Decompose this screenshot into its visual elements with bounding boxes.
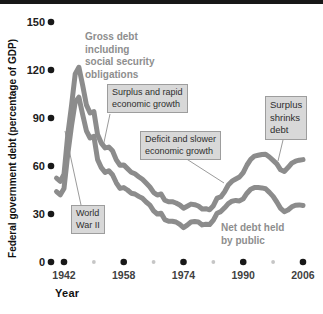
axis-tick-dot <box>48 211 55 218</box>
y-tick-60: 60 <box>15 159 45 173</box>
axis-tick-dot <box>48 19 55 26</box>
net-debt-label: Net debt held by public <box>221 222 284 247</box>
y-tick-30: 30 <box>15 207 45 221</box>
axis-tick-dot <box>48 259 55 266</box>
callout-line-surplus-rapid <box>103 114 110 147</box>
axis-tick-dot <box>61 259 68 266</box>
x-tick-1942: 1942 <box>44 269 84 282</box>
annotation-box-surplus-shrinks: Surplus shrinks debt <box>265 96 307 140</box>
axis-tick-dot <box>300 259 307 266</box>
axis-tick-dot <box>180 259 187 266</box>
x-tick-1990: 1990 <box>223 269 263 282</box>
axis-tick-dot <box>271 260 275 264</box>
x-axis-title: Year <box>55 287 79 299</box>
axis-tick-dot <box>48 163 55 170</box>
axis-tick-dot <box>92 260 96 264</box>
axis-tick-dot <box>211 260 215 264</box>
gross-debt-label: Gross debt including social security obl… <box>85 31 154 81</box>
annotation-box-world-war-ii: World War II <box>71 205 105 234</box>
axis-tick-dot <box>48 67 55 74</box>
annotation-box-surplus-rapid: Surplus and rapid economic growth <box>107 84 188 113</box>
y-tick-90: 90 <box>15 111 45 125</box>
axis-tick-dot <box>48 115 55 122</box>
x-tick-1958: 1958 <box>104 269 144 282</box>
y-axis-title: Federal government debt (percentage of G… <box>7 30 20 268</box>
y-tick-150: 150 <box>15 15 45 29</box>
axis-tick-dot <box>240 259 247 266</box>
x-tick-1974: 1974 <box>164 269 204 282</box>
callout-line-surplus-shrinks <box>278 140 283 161</box>
annotation-box-deficit-slower: Deficit and slower economic growth <box>140 131 221 160</box>
x-tick-2006: 2006 <box>283 269 323 282</box>
y-tick-0: 0 <box>15 255 45 269</box>
y-tick-120: 120 <box>15 63 45 77</box>
axis-tick-dot <box>152 260 156 264</box>
callout-line-deficit-slower <box>185 158 224 183</box>
debt-chart-figure: 150 120 90 60 30 0 1942 1958 1974 1990 2… <box>0 0 323 314</box>
axis-tick-dot <box>120 259 127 266</box>
